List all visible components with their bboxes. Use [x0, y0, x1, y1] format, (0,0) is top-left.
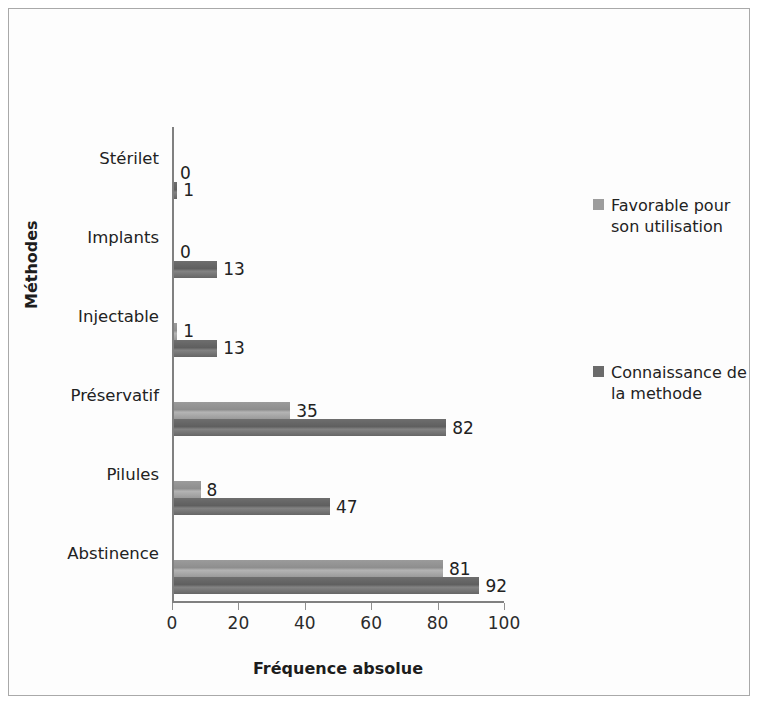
x-axis-tick — [238, 603, 239, 610]
y-axis-category-label: Injectable — [0, 307, 159, 326]
bar-value-label: 1 — [183, 321, 194, 341]
legend-item-favorable[interactable]: Favorable pour son utilisation — [593, 195, 762, 237]
bar-favorable[interactable]: 81 — [174, 560, 443, 577]
plot-area: 020406080100 Stérilet01Implants013Inject… — [164, 127, 664, 602]
bar-favorable[interactable]: 35 — [174, 402, 290, 419]
x-axis-tick-label: 60 — [341, 613, 401, 633]
x-axis-tick — [305, 603, 306, 610]
legend-item-label: Connaissance de la methode — [611, 362, 762, 404]
x-axis-tick-label: 20 — [208, 613, 268, 633]
bar-group: Stérilet01 — [164, 127, 664, 206]
bar-pair: 013 — [174, 244, 217, 278]
bar-connaissance[interactable]: 13 — [174, 261, 217, 278]
x-axis-tick-label: 80 — [408, 613, 468, 633]
bar-connaissance[interactable]: 1 — [174, 182, 177, 199]
bar-pair: 8192 — [174, 560, 479, 594]
bar-value-label: 35 — [296, 401, 318, 421]
bar-value-label: 1 — [183, 180, 194, 200]
legend-item-connaissance[interactable]: Connaissance de la methode — [593, 362, 762, 404]
y-axis-title: Méthodes — [22, 220, 41, 309]
x-axis-tick — [371, 603, 372, 610]
bar-connaissance[interactable]: 92 — [174, 577, 479, 594]
x-axis-tick — [504, 603, 505, 610]
bar-favorable[interactable]: 1 — [174, 323, 177, 340]
bar-value-label: 81 — [449, 559, 471, 579]
y-axis-category-label: Préservatif — [0, 386, 159, 405]
bar-pair: 01 — [174, 165, 177, 199]
bar-connaissance[interactable]: 13 — [174, 340, 217, 357]
bar-value-label: 0 — [180, 242, 191, 262]
bar-group: Injectable113 — [164, 285, 664, 364]
y-axis-category-label: Stérilet — [0, 149, 159, 168]
bar-pair: 3582 — [174, 402, 446, 436]
x-axis-tick — [438, 603, 439, 610]
bar-group: Implants013 — [164, 206, 664, 285]
legend-swatch-icon — [593, 366, 604, 377]
bar-value-label: 92 — [485, 576, 507, 596]
bar-value-label: 13 — [223, 259, 245, 279]
bar-favorable[interactable]: 8 — [174, 481, 201, 498]
x-axis-tick — [172, 603, 173, 610]
bar-value-label: 47 — [336, 497, 358, 517]
bar-pair: 847 — [174, 481, 330, 515]
bar-value-label: 8 — [207, 480, 218, 500]
legend-swatch-icon — [593, 199, 604, 210]
x-axis-tick-label: 100 — [474, 613, 534, 633]
bar-connaissance[interactable]: 47 — [174, 498, 330, 515]
x-axis-tick-label: 40 — [275, 613, 335, 633]
bar-group: Préservatif3582 — [164, 365, 664, 444]
x-axis-tick-label: 0 — [142, 613, 202, 633]
y-axis-category-label: Pilules — [0, 465, 159, 484]
x-axis-title: Fréquence absolue — [172, 659, 504, 678]
chart-container: 020406080100 Stérilet01Implants013Inject… — [8, 8, 750, 696]
bar-value-label: 82 — [452, 418, 474, 438]
y-axis-category-label: Abstinence — [0, 544, 159, 563]
bar-value-label: 13 — [223, 338, 245, 358]
bar-group: Abstinence8192 — [164, 523, 664, 602]
bar-connaissance[interactable]: 82 — [174, 419, 446, 436]
bar-group: Pilules847 — [164, 444, 664, 523]
legend-item-label: Favorable pour son utilisation — [611, 195, 762, 237]
bar-pair: 113 — [174, 323, 217, 357]
